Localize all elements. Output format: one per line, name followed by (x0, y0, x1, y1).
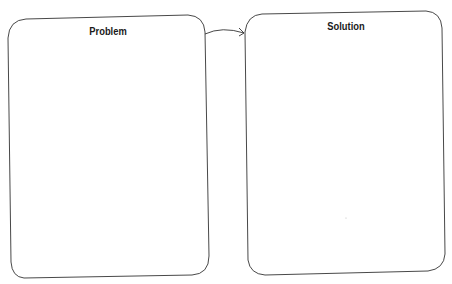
problem-title: Problem (89, 25, 126, 37)
solution-title: Solution (327, 20, 364, 32)
diagram-canvas (0, 0, 452, 284)
problem-box (8, 15, 209, 278)
connector-arrow (205, 30, 244, 34)
stray-mark (345, 217, 346, 218)
solution-box (245, 11, 445, 275)
